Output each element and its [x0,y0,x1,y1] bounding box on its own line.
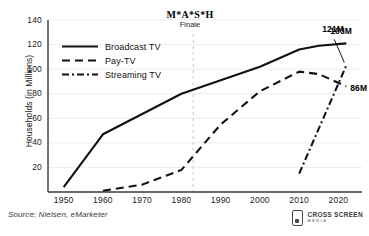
mash-finale-subtitle: Finale [149,20,231,30]
legend-label-streaming-tv: Streaming TV [105,70,161,80]
plot-area [0,0,369,236]
logo-name: CROSS SCREEN [307,212,363,219]
legend-label-pay-tv: Pay-TV [105,56,136,66]
legend-item-pay-tv: Pay-TV [62,55,161,66]
legend-item-streaming-tv: Streaming TV [62,69,161,80]
legend-swatch-dashdot-icon [62,70,98,79]
legend-swatch-dashed-icon [62,56,98,65]
legend-item-broadcast-tv: Broadcast TV [62,41,161,52]
mash-finale-annotation: M*A*S*H Finale [149,9,231,30]
chart-legend: Broadcast TV Pay-TV Streaming TV [62,41,161,80]
cross-screen-media-logo: CROSS SCREEN MEDIA [292,210,363,226]
chart-container: Households (in Millions) 204060801001201… [0,0,369,236]
logo-mark-icon [292,210,303,226]
end-label-pay-tv: 86M [350,83,367,93]
mash-finale-title: M*A*S*H [149,9,231,20]
series-line-streaming-tv [299,65,346,173]
end-label-streaming-tv: 103M [330,26,352,36]
logo-text: CROSS SCREEN MEDIA [307,212,363,223]
legend-label-broadcast-tv: Broadcast TV [105,42,161,52]
source-note: Source: Nielsen, eMarketer [8,210,108,219]
legend-swatch-solid-icon [62,42,98,51]
logo-sub: MEDIA [307,220,363,224]
series-line-pay-tv [103,72,346,191]
